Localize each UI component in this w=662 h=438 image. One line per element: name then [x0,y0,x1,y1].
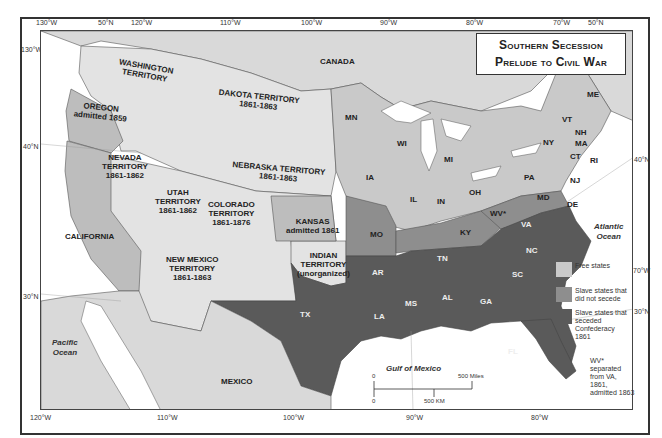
tick-top-130w: 130°W [36,19,57,26]
tick-top-90w: 90°W [380,19,397,26]
tick-top-80w: 80°W [466,19,483,26]
tick-left-40n: 40°N [23,143,39,150]
legend-swatch-slave-not-seceded [556,287,572,302]
label-colorado: COLORADOTERRITORY1861-1876 [208,200,255,228]
state-wi: WI [397,139,407,148]
label-atlantic-ocean: AtlanticOcean [594,222,623,241]
state-mi: MI [444,155,453,164]
state-il: IL [410,195,417,204]
state-md: MD [537,193,549,202]
tick-top-70w: 70°W [553,19,570,26]
legend-item-seceded: Slave states that seceded Confederacy 18… [556,309,632,341]
state-ct: CT [570,152,581,161]
state-mo: MO [370,230,383,239]
scale-500-miles: 500 Miles [458,373,484,379]
label-gulf-of-mexico: Gulf of Mexico [386,364,441,374]
scale-zero-km: 0 [372,398,375,404]
legend-swatch-seceded [556,309,572,324]
state-mn: MN [345,113,357,122]
tick-top-50n: 50°N [98,19,114,26]
label-nevada: NEVADATERRITORY1861-1862 [102,153,148,181]
title-line-1: Southern Secession [477,37,625,54]
state-fl: FL [508,347,518,356]
state-ky: KY [460,228,471,237]
state-nh: NH [575,128,587,137]
state-va: VA [521,220,532,229]
legend-item-free: Free states [556,262,632,277]
label-canada: CANADA [320,57,355,66]
state-ar: AR [372,268,384,277]
state-tx: TX [300,310,310,319]
tick-bottom-110w: 110°W [157,414,178,421]
tick-bottom-80w: 80°W [531,414,548,421]
legend-item-slave-not-seceded: Slave states that did not secede [556,287,632,303]
tick-bottom-100w: 100°W [283,414,304,421]
state-pa: PA [524,173,535,182]
state-al: AL [442,293,453,302]
tick-bottom-120w: 120°W [30,414,51,421]
map-title: Southern Secession Prelude to Civil War [476,33,626,75]
state-de: DE [567,200,578,209]
label-pacific-ocean: PacificOcean [52,338,78,357]
state-tn: TN [437,254,448,263]
state-oh: OH [469,188,481,197]
state-la: LA [374,312,385,321]
tick-top-120w: 120°W [131,19,152,26]
state-wv: WV* [490,209,506,218]
tick-top-110w: 110°W [220,19,241,26]
state-ia: IA [366,173,374,182]
label-indian-territory: INDIANTERRITORY(unorganized) [297,251,350,279]
tick-right-70w: 70°W [633,267,650,274]
legend-swatch-free [556,262,572,277]
tick-right-30n: 30°N [634,308,650,315]
label-utah: UTAHTERRITORY1861-1862 [155,188,201,216]
state-nc: NC [526,246,538,255]
tick-left-130w: 130°W [21,46,42,53]
legend: Free states Slave states that did not se… [556,262,632,347]
scale-500-km: 500 KM [424,398,445,404]
state-sc: SC [512,270,523,279]
tick-left-30n: 30°N [23,293,39,300]
state-ri: RI [590,156,598,165]
state-ny: NY [543,138,554,147]
label-california: CALIFORNIA [65,232,114,241]
wv-footnote: WV* separated from VA, 1861, admitted 18… [590,357,636,397]
state-ms: MS [405,299,417,308]
label-kansas: KANSASadmitted 1861 [286,217,339,235]
title-line-2: Prelude to Civil War [477,54,625,71]
state-in: IN [437,197,445,206]
state-ma: MA [575,139,587,148]
tick-bottom-90w: 90°W [406,414,423,421]
label-mexico: MEXICO [221,377,253,386]
label-new-mexico: NEW MEXICOTERRITORY1861-1863 [166,255,218,283]
state-vt: VT [562,115,572,124]
state-me: ME [587,90,599,99]
scale-zero-miles: 0 [372,373,375,379]
tick-right-40n: 40°N [634,156,650,163]
state-ga: GA [480,297,492,306]
tick-top-100w: 100°W [301,19,322,26]
state-nj: NJ [570,176,580,185]
tick-top-50n-right: 50°N [588,19,604,26]
